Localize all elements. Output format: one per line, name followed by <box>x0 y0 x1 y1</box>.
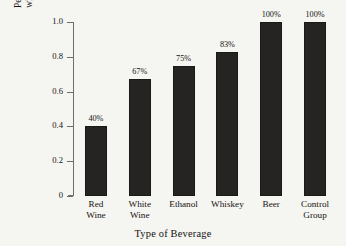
x-axis-category-label-line: Wine <box>118 210 162 221</box>
bar-value-label: 100% <box>262 10 281 20</box>
x-axis-category-label: RedWine <box>74 199 118 222</box>
y-axis-tick-label: 0.6 <box>52 86 63 97</box>
bar[interactable] <box>304 22 326 196</box>
bar[interactable] <box>129 79 151 196</box>
y-axis-tick: 0.8 <box>67 57 73 58</box>
bar-value-label: 40% <box>88 114 103 124</box>
y-axis-tick-label: 0.8 <box>52 51 63 62</box>
bar-group[interactable]: 75% <box>162 22 206 196</box>
y-axis-tick-label: 0.2 <box>52 155 63 166</box>
x-axis-category-labels: RedWineWhiteWineEthanolWhiskeyBeerContro… <box>74 199 337 227</box>
bar[interactable] <box>173 66 195 197</box>
y-axis-tick: 1.0 <box>67 22 73 23</box>
y-axis-tick: 0.2 <box>67 161 73 162</box>
x-axis-category-label: WhiteWine <box>118 199 162 222</box>
y-axis-tick-label: 0.4 <box>52 120 63 131</box>
bars-layer: 40%67%75%83%100%100% <box>74 22 336 196</box>
bar-group[interactable]: 40% <box>74 22 118 196</box>
x-axis-category-label: Beer <box>249 199 293 210</box>
bar-value-label: 67% <box>132 67 147 77</box>
x-axis-title: Type of Beverage <box>0 227 346 240</box>
plot-area: 00.20.40.60.81.0 40%67%75%83%100%100% <box>73 22 336 196</box>
bar-group[interactable]: 67% <box>118 22 162 196</box>
bar-chart-figure: Percent of Coronary Arteries with Athero… <box>0 0 346 246</box>
bar-group[interactable]: 83% <box>206 22 250 196</box>
y-axis-tick-label: 1.0 <box>52 16 63 27</box>
bar-value-label: 100% <box>306 10 325 20</box>
y-axis-tick: 0.6 <box>67 92 73 93</box>
x-axis-category-label-line: Red <box>74 199 118 210</box>
y-axis-title: Percent of Coronary Arteries with Athero… <box>8 0 40 44</box>
x-axis-category-label-line: Control <box>293 199 337 210</box>
x-axis-category-label-line: Group <box>293 210 337 221</box>
y-axis-title-line-2: with Atherosclerotic Lesions <box>24 0 35 8</box>
y-axis-tick: 0.4 <box>67 126 73 127</box>
bar[interactable] <box>85 126 107 196</box>
x-axis-category-label-line: White <box>118 199 162 210</box>
x-axis-category-label: ControlGroup <box>293 199 337 222</box>
bar[interactable] <box>216 52 238 196</box>
x-axis-category-label-line: Wine <box>74 210 118 221</box>
y-axis-title-line-1: Percent of Coronary Arteries <box>13 0 24 8</box>
x-axis-category-label: Whiskey <box>206 199 250 210</box>
bar-group[interactable]: 100% <box>293 22 337 196</box>
x-axis-category-label-line: Whiskey <box>206 199 250 210</box>
y-axis-tick: 0 <box>67 196 73 197</box>
x-axis-category-label-line: Ethanol <box>162 199 206 210</box>
bar-value-label: 75% <box>176 54 191 64</box>
x-axis-category-label-line: Beer <box>249 199 293 210</box>
y-axis-tick-label: 0 <box>59 190 63 201</box>
bar-value-label: 83% <box>220 40 235 50</box>
bar-group[interactable]: 100% <box>249 22 293 196</box>
bar[interactable] <box>260 22 282 196</box>
x-axis-category-label: Ethanol <box>162 199 206 210</box>
